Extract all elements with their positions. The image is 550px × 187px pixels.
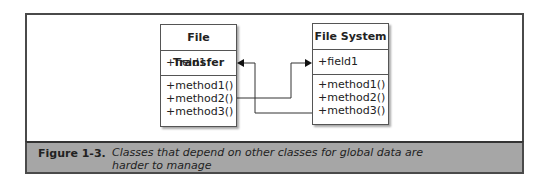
connector-ft-to-fs bbox=[236, 63, 306, 98]
arrowhead-icon bbox=[305, 59, 312, 67]
class-method: +method2() bbox=[166, 92, 236, 105]
figure-label: Figure 1-3. bbox=[38, 147, 106, 160]
class-method: +method3() bbox=[166, 105, 236, 118]
class-field: +field1 bbox=[313, 50, 388, 75]
class-methods: +method1() +method2() +method3() bbox=[161, 76, 236, 118]
class-methods: +method1() +method2() +method3() bbox=[313, 75, 388, 117]
class-method: +method1() bbox=[318, 78, 388, 91]
figure-caption-text: Classes that depend on other classes for… bbox=[112, 146, 442, 172]
class-name: File System bbox=[313, 24, 388, 50]
arrowhead-icon bbox=[237, 59, 244, 67]
class-file-transfer: File Transfer +field1 +method1() +method… bbox=[160, 24, 237, 127]
class-method: +method1() bbox=[166, 79, 236, 92]
class-method: +method3() bbox=[318, 104, 388, 117]
class-field: +field1 bbox=[161, 51, 236, 76]
class-method: +method2() bbox=[318, 91, 388, 104]
class-name: File Transfer bbox=[161, 25, 236, 51]
connector-fs-to-ft bbox=[243, 63, 312, 113]
figure-caption: Figure 1-3. Classes that depend on other… bbox=[25, 141, 524, 174]
class-file-system: File System +field1 +method1() +method2(… bbox=[312, 23, 389, 125]
